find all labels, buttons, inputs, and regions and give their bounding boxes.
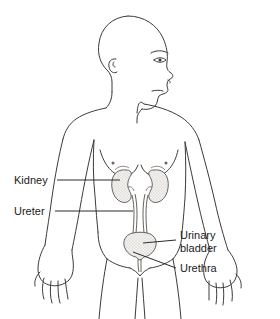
background [0, 0, 280, 319]
label-ureter: Ureter [14, 205, 45, 217]
label-urinary-bladder-line2: bladder [180, 242, 217, 254]
nipple-right [165, 162, 168, 165]
nipple-left [112, 162, 115, 165]
figure-canvas: Kidney Ureter Urinary bladder Urethra [0, 0, 280, 319]
label-urethra: Urethra [180, 262, 218, 274]
pupil [158, 58, 161, 61]
label-kidney: Kidney [14, 174, 48, 186]
anatomy-diagram: Kidney Ureter Urinary bladder Urethra [0, 0, 280, 319]
label-urinary-bladder-line1: Urinary [180, 229, 216, 241]
